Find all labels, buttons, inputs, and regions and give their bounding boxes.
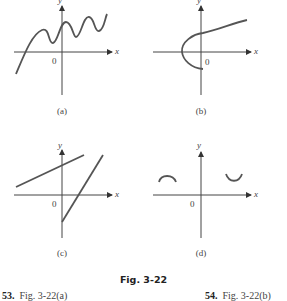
y-axis-label: y [58, 0, 62, 5]
exercise-text: Fig. 3-22(a) [20, 290, 68, 301]
origin-label: 0 [190, 199, 195, 209]
panel-d: y x 0 (d) [143, 138, 287, 268]
panel-c: y x 0 (c) [0, 138, 143, 268]
exercise-54: 54. Fig. 3-22(b) [205, 290, 271, 301]
curve-b [182, 20, 247, 69]
caption-d: (d) [186, 248, 216, 258]
arc-concave-down [159, 176, 176, 182]
y-axis-label: y [58, 140, 62, 150]
caption-b: (b) [186, 106, 216, 116]
x-axis-label: x [254, 46, 258, 56]
x-axis-label: x [254, 189, 258, 199]
line-shallow [16, 155, 84, 187]
line-steep [62, 155, 103, 222]
origin-label: 0 [205, 57, 210, 67]
panel-b: y x 0 (b) [143, 0, 287, 130]
exercise-53: 53. Fig. 3-22(a) [2, 290, 67, 301]
exercise-number: 54. [205, 290, 218, 301]
panel-a: y x 0 (a) [0, 0, 143, 130]
figure-title: Fig. 3-22 [0, 274, 287, 285]
exercise-number: 53. [2, 290, 15, 301]
exercise-text: Fig. 3-22(b) [223, 290, 271, 301]
x-axis-label: x [115, 189, 119, 199]
arc-concave-up [226, 174, 242, 181]
origin-label: 0 [52, 199, 57, 209]
caption-c: (c) [47, 248, 77, 258]
caption-a: (a) [47, 106, 77, 116]
origin-label: 0 [52, 56, 57, 66]
x-axis-label: x [115, 46, 119, 56]
y-axis-label: y [197, 0, 201, 5]
y-axis-label: y [197, 140, 201, 150]
